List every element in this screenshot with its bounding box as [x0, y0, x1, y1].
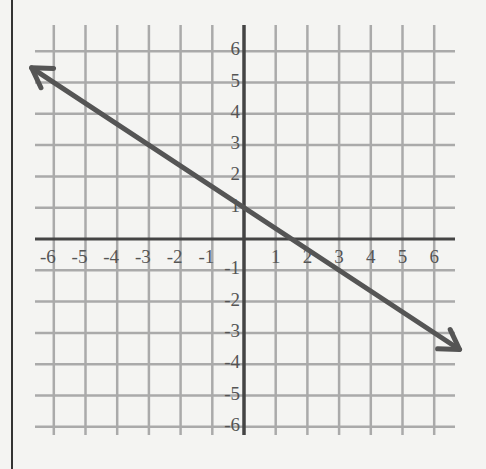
y-tick-label: 3	[231, 132, 241, 153]
y-tick-label: 6	[231, 38, 241, 59]
x-tick-label: 1	[271, 246, 281, 267]
x-tick-label: -1	[198, 246, 214, 267]
x-tick-label: 6	[429, 246, 439, 267]
coordinate-plane: -6-5-4-3-2-1123456 654321-1-2-3-4-5-6	[0, 0, 486, 469]
y-tick-label: 2	[231, 163, 241, 184]
axes	[35, 25, 455, 435]
y-tick-label: -5	[224, 383, 240, 404]
x-tick-label: -6	[40, 246, 56, 267]
x-tick-label: 3	[334, 246, 344, 267]
y-tick-label: 4	[231, 101, 241, 122]
y-tick-label: -6	[224, 414, 240, 435]
y-tick-label: -4	[224, 351, 240, 372]
y-tick-label: -1	[224, 257, 240, 278]
x-tick-label: -4	[103, 246, 119, 267]
y-tick-label: -2	[224, 289, 240, 310]
x-tick-label: -5	[72, 246, 88, 267]
y-tick-label: -3	[224, 320, 240, 341]
x-tick-label: -2	[167, 246, 183, 267]
x-tick-label: 5	[398, 246, 408, 267]
x-tick-label: 4	[366, 246, 376, 267]
x-tick-label: -3	[135, 246, 151, 267]
y-tick-label: 5	[231, 70, 241, 91]
y-tick-labels: 654321-1-2-3-4-5-6	[224, 38, 240, 435]
